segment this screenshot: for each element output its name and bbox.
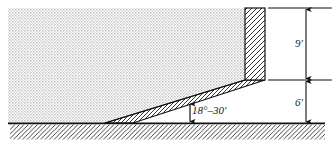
cross-section-drawing xyxy=(0,0,335,148)
wall-block-body xyxy=(245,8,265,80)
slope-cross-section-figure: 18°–30' 9' 6' xyxy=(0,0,335,148)
ground-hatch-fill xyxy=(10,125,325,140)
ground-region xyxy=(8,123,325,139)
lower-dimension-label: 6' xyxy=(295,97,303,108)
slope-angle-label: 18°–30' xyxy=(192,105,226,116)
upper-dimension-label: 9' xyxy=(295,38,303,49)
vertical-wall-block xyxy=(245,8,265,80)
